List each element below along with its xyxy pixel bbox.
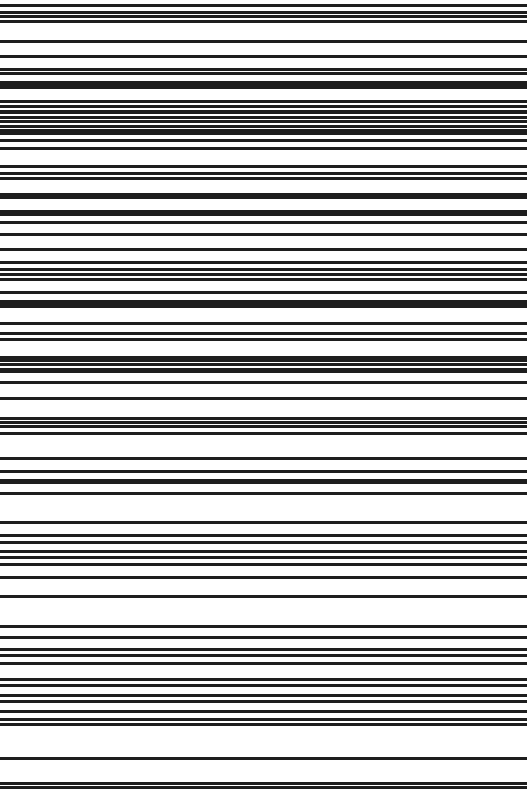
barcode-bar: [0, 470, 527, 473]
barcode-bar: [0, 786, 527, 789]
barcode-bar: [0, 397, 527, 400]
barcode-bar: [0, 492, 527, 495]
barcode-bar: [0, 718, 527, 721]
barcode-bar: [0, 268, 527, 271]
barcode-bar: [0, 479, 527, 484]
barcode-bar: [0, 193, 527, 199]
barcode-bar: [0, 678, 527, 681]
barcode-bar: [0, 700, 527, 703]
barcode-bar: [0, 15, 527, 18]
barcode-bar: [0, 576, 527, 579]
barcode-bar: [0, 72, 527, 75]
barcode-bar: [0, 40, 527, 43]
barcode-bar: [0, 723, 527, 726]
barcode-bar: [0, 534, 527, 537]
barcode-bar: [0, 556, 527, 559]
barcode-bar: [0, 305, 527, 308]
barcode-bar: [0, 332, 527, 335]
barcode-bar: [0, 563, 527, 566]
barcode-bar: [0, 322, 527, 325]
barcode-bar: [0, 110, 527, 114]
barcode-bar: [0, 432, 527, 435]
barcode-bar: [0, 381, 527, 384]
barcode-bar: [0, 273, 527, 276]
barcode-bar: [0, 550, 527, 553]
barcode-bar: [0, 417, 527, 420]
barcode-bar: [0, 541, 527, 544]
barcode-bar: [0, 210, 527, 216]
barcode-bar: [0, 125, 527, 128]
barcode-bar: [0, 100, 527, 103]
barcode-bar: [0, 278, 527, 281]
barcode-bar: [0, 363, 527, 366]
barcode-bar: [0, 521, 527, 524]
barcode-bar: [0, 457, 527, 460]
barcode-bar: [0, 595, 527, 598]
barcode-bar: [0, 11, 527, 14]
barcode-bar: [0, 139, 527, 142]
barcode-bar: [0, 356, 527, 362]
barcode-bar: [0, 233, 527, 236]
barcode-bar: [0, 368, 527, 373]
barcode-bar: [0, 684, 527, 687]
barcode-bar: [0, 757, 527, 760]
barcode-bar: [0, 81, 527, 89]
barcode-bar: [0, 105, 527, 108]
barcode-bar: [0, 120, 527, 123]
barcode-bar: [0, 625, 527, 628]
barcode-bar: [0, 338, 527, 341]
barcode-bar: [0, 291, 527, 294]
barcode-bar: [0, 68, 527, 71]
barcode-bar: [0, 662, 527, 665]
barcode-bar: [0, 172, 527, 175]
barcode-bar: [0, 636, 527, 639]
barcode-bar: [0, 710, 527, 713]
barcode-bar: [0, 421, 527, 424]
barcode-bar: [0, 20, 527, 23]
barcode-bar: [0, 221, 527, 224]
barcode-bar: [0, 782, 527, 785]
barcode-bar: [0, 177, 527, 180]
barcode-bar: [0, 648, 527, 651]
barcode-bar: [0, 147, 527, 150]
barcode-bar: [0, 248, 527, 251]
barcode-bar: [0, 694, 527, 697]
barcode-bar: [0, 425, 527, 428]
barcode-bar: [0, 165, 527, 168]
barcode-bar: [0, 55, 527, 58]
barcode-bar: [0, 116, 527, 119]
barcode-bar: [0, 129, 527, 135]
barcode-bar: [0, 261, 527, 264]
barcode-image: [0, 0, 527, 793]
barcode-bar: [0, 4, 527, 7]
barcode-bar: [0, 654, 527, 657]
